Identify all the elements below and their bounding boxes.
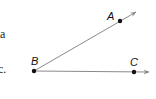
point-b: [32, 69, 36, 73]
point-c: [132, 70, 136, 74]
ray-bc: [34, 71, 149, 72]
point-a: [118, 19, 122, 23]
angle-diagram: A B C: [0, 0, 156, 99]
label-c: C: [130, 56, 138, 68]
label-b: B: [31, 55, 38, 67]
label-a: A: [106, 10, 114, 22]
